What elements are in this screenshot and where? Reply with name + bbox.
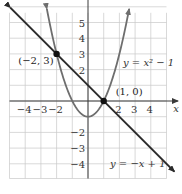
y-tick-label: −4 <box>70 159 85 170</box>
x-axis-label: x <box>173 103 179 114</box>
x-tick-label: −2 <box>48 104 63 115</box>
x-tick-label: 3 <box>131 104 137 115</box>
y-tick-label: 3 <box>79 49 85 60</box>
point-label: (1, 0) <box>116 86 143 97</box>
graph: x −4−3−22345432−2−3−4 (−2, 3)(1, 0) y = … <box>0 0 182 194</box>
y-tick-label: 5 <box>79 18 85 29</box>
series <box>10 8 174 172</box>
y-tick-label: 4 <box>79 33 85 44</box>
x-tick-label: −3 <box>33 104 48 115</box>
y-tick-label: 2 <box>79 65 85 76</box>
line-curve <box>10 8 174 172</box>
intersection-point <box>101 98 107 104</box>
x-tick-label: 4 <box>147 104 153 115</box>
x-tick-label: −4 <box>17 104 32 115</box>
point-label: (−2, 3) <box>18 55 53 66</box>
parabola-label: y = x² − 1 <box>122 57 174 68</box>
y-tick-label: −3 <box>70 143 85 154</box>
line-label: y = −x + 1 <box>109 158 166 169</box>
intersection-point <box>53 51 59 57</box>
y-tick-label: −2 <box>70 127 85 138</box>
